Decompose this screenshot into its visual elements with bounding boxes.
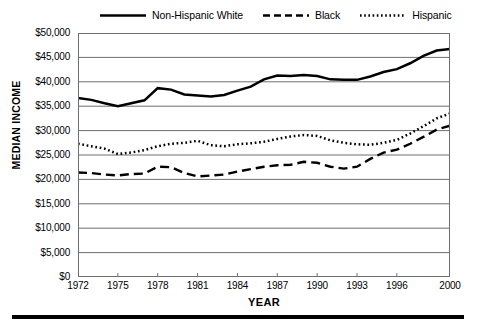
- y-tick-label: $25,000: [35, 150, 70, 160]
- legend-entry-black: Black: [263, 10, 340, 21]
- plot-area: [78, 33, 450, 277]
- x-tick-label: 1972: [67, 280, 88, 292]
- y-tick-label: $45,000: [35, 52, 70, 62]
- legend-label-hispanic: Hispanic: [412, 10, 451, 21]
- y-tick-label: $35,000: [35, 101, 70, 111]
- solid-line-swatch-icon: [100, 10, 146, 21]
- legend-entry-non-hispanic-white: Non-Hispanic White: [100, 10, 243, 21]
- x-axis-title: YEAR: [78, 296, 450, 308]
- legend-entry-hispanic: Hispanic: [360, 10, 451, 21]
- x-tick-label: 2000: [439, 280, 460, 292]
- y-tick-label: $20,000: [35, 174, 70, 184]
- x-tick-label: 1996: [386, 280, 407, 292]
- y-tick-label: $50,000: [35, 28, 70, 38]
- median-income-line-chart: Non-Hispanic White Black Hispanic $0$5,0…: [0, 0, 477, 324]
- x-axis-tick-labels: 1972197519781981198419871990199319962000: [78, 280, 450, 294]
- legend-label-non-hispanic-white: Non-Hispanic White: [152, 10, 243, 21]
- legend-label-black: Black: [315, 10, 340, 21]
- y-tick-label: $5,000: [41, 248, 70, 258]
- x-tick-label: 1990: [306, 280, 327, 292]
- dotted-line-swatch-icon: [360, 10, 406, 21]
- y-axis-title: MEDIAN INCOME: [10, 65, 22, 185]
- y-tick-label: $30,000: [35, 126, 70, 136]
- y-tick-label: $40,000: [35, 77, 70, 87]
- chart-legend: Non-Hispanic White Black Hispanic: [100, 6, 440, 24]
- footer-rule: [12, 315, 464, 319]
- plot-frame-border: [78, 33, 450, 277]
- x-tick-label: 1975: [107, 280, 128, 292]
- y-tick-label: $10,000: [35, 223, 70, 233]
- x-tick-label: 1987: [267, 280, 288, 292]
- x-tick-label: 1981: [187, 280, 208, 292]
- x-tick-label: 1993: [346, 280, 367, 292]
- x-tick-label: 1978: [147, 280, 168, 292]
- y-tick-label: $15,000: [35, 199, 70, 209]
- dashed-line-swatch-icon: [263, 10, 309, 21]
- x-tick-label: 1984: [227, 280, 248, 292]
